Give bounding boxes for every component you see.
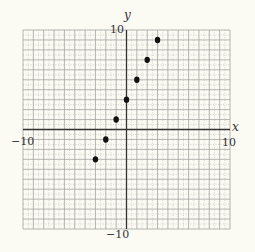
y-min-label: −10 xyxy=(106,228,129,241)
data-point xyxy=(124,96,129,102)
x-axis-label: x xyxy=(232,120,239,134)
x-min-label: −10 xyxy=(11,135,34,148)
scatter-plot: −10 10 10 −10 x y xyxy=(0,0,255,252)
data-point xyxy=(113,116,118,122)
data-point xyxy=(145,57,150,63)
y-max-label: 10 xyxy=(110,23,124,36)
y-axis-label: y xyxy=(123,8,131,22)
data-point xyxy=(155,37,160,43)
data-point xyxy=(93,156,98,162)
data-point xyxy=(134,77,139,83)
x-max-label: 10 xyxy=(222,136,236,149)
data-point xyxy=(103,136,108,142)
